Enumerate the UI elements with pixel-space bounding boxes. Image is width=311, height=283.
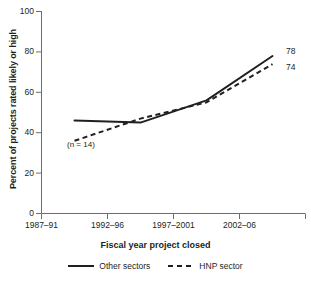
x-tick-label-1992-96: 1992–96 — [75, 221, 141, 230]
y-tick-marks — [36, 12, 42, 214]
legend-swatch-solid-icon — [68, 262, 94, 270]
legend-label-hnp-sector: HNP sector — [199, 262, 242, 271]
x-tick-marks — [42, 214, 306, 220]
chart-figure: Percent of projects rated likely or high… — [0, 0, 311, 283]
sample-size-annotation: (n = 14) — [67, 140, 95, 149]
legend-item-other-sectors: Other sectors — [68, 262, 150, 271]
series-line-other-sectors — [75, 56, 273, 123]
legend-label-other-sectors: Other sectors — [99, 262, 150, 271]
chart-legend: Other sectors HNP sector — [0, 262, 311, 271]
legend-item-hnp-sector: HNP sector — [168, 262, 242, 271]
x-axis-title: Fiscal year project closed — [0, 240, 311, 250]
x-tick-label-1987-91: 1987–91 — [9, 221, 75, 230]
value-label-other-sectors-2002-06: 78 — [286, 47, 295, 56]
legend-swatch-dashed-icon — [168, 262, 194, 270]
x-tick-label-1997-2001: 1997–2001 — [141, 221, 207, 230]
value-label-hnp-sector-2002-06: 74 — [286, 63, 295, 72]
x-tick-label-2002-06: 2002–06 — [207, 221, 273, 230]
